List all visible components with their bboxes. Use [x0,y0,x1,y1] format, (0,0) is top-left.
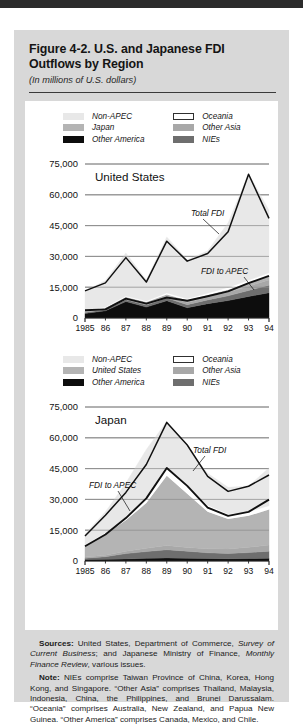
y-axis-tick-label: 15,000 [49,525,78,536]
chart-japan-svg: 015,00030,00045,00060,00075,000198586878… [33,393,276,589]
sources-text-a: United States, Department of Commerce, [74,639,238,648]
figure-title-line-2: Outflows by Region [29,57,144,71]
axes [85,561,269,565]
legend-swatch-icon [173,136,194,143]
legend-item-non-apec: Non-APEC [63,111,171,121]
legend-japan: Non-APEC United States Other America Oce… [33,354,270,387]
figure-header: Figure 4-2. U.S. and Japanese FDI Outflo… [25,40,278,86]
annotation-total-fdi: Total FDI [191,208,225,218]
x-axis-tick-label: 94 [264,323,274,333]
x-axis-tick-label: 93 [244,323,254,333]
axes [85,318,269,322]
legend-swatch-icon [63,113,84,120]
legend-item-oceania: Oceania [173,354,270,364]
legend-swatch-icon [63,379,84,386]
legend-item-label: Other America [92,378,144,387]
legend-item-japan: Japan [63,123,171,133]
legend-swatch-icon [63,356,84,363]
legend-swatch-icon [173,356,194,363]
legend-column-right: Oceania Other Asia NIEs [171,111,270,144]
definitions-note: Note: NIEs comprise Taiwan Province of C… [30,673,274,725]
note-label: Note: [39,673,60,682]
x-axis-tick-label: 88 [142,566,152,576]
chart-japan: 015,00030,00045,00060,00075,000198586878… [33,393,270,589]
sources-label: Sources: [39,639,74,648]
legend-united-states: Non-APEC Japan Other America Oceania [33,111,270,144]
y-axis-tick-label: 45,000 [49,220,78,231]
legend-item-other-asia: Other Asia [173,123,270,133]
legend-item-non-apec: Non-APEC [63,354,171,364]
chart-title: Japan [95,413,127,426]
annotation-leader-total-fdi [203,219,219,234]
legend-item-label: Japan [92,123,114,132]
legend-item-label: Oceania [202,355,233,364]
annotation-total-fdi: Total FDI [193,445,227,455]
page-title: Figure 4-2. U.S. and Japanese FDI Outflo… [29,42,276,72]
charts-card: Non-APEC Japan Other America Oceania [25,101,278,630]
x-axis-tick-label: 1985 [75,323,94,333]
legend-item-label: Non-APEC [92,112,132,121]
x-axis-tick-label: 94 [264,566,274,576]
legend-item-oceania: Oceania [173,111,270,121]
legend-swatch-icon [173,124,194,131]
legend-item-label: Other America [92,135,144,144]
legend-column-right: Oceania Other Asia NIEs [171,354,270,387]
legend-item-nies: NIEs [173,134,270,144]
x-axis-tick-label: 93 [244,566,254,576]
figure-title-line-1: Figure 4-2. U.S. and Japanese FDI [29,42,225,56]
chart-united-states: 015,00030,00045,00060,00075,000198586878… [33,150,270,346]
figure-frame: Figure 4-2. U.S. and Japanese FDI Outflo… [14,30,289,702]
legend-item-label: Other Asia [202,366,240,375]
legend-item-label: NIEs [202,378,220,387]
x-axis-tick-label: 90 [182,566,192,576]
x-axis-tick-label: 89 [162,566,172,576]
legend-swatch-icon [63,124,84,131]
annotation-fdi-to-apec: FDI to APEC [201,266,249,276]
y-axis-tick-label: 30,000 [49,251,78,262]
figure-units-subtitle: (In millions of U.S. dollars) [29,75,276,86]
legend-item-other-asia: Other Asia [173,366,270,376]
x-axis-tick-label: 91 [203,566,213,576]
sources-text-c: , various issues. [88,660,146,669]
legend-item-label: Non-APEC [92,355,132,364]
chart-title: United States [95,170,165,183]
legend-swatch-icon [63,367,84,374]
sources-note: Sources: United States, Department of Co… [30,639,274,670]
legend-swatch-icon [173,367,194,374]
legend-column-left: Non-APEC United States Other America [37,354,171,387]
y-axis-tick-label: 15,000 [49,282,78,293]
x-axis-tick-label: 86 [101,323,111,333]
y-axis-tick-label: 30,000 [49,494,78,505]
legend-swatch-icon [173,113,194,120]
note-text: NIEs comprise Taiwan Province of China, … [30,673,274,724]
y-axis-tick-label: 60,000 [49,189,78,200]
x-axis-tick-label: 90 [182,323,192,333]
y-axis-tick-label: 75,000 [49,401,78,412]
x-axis-tick-label: 1985 [75,566,94,576]
title-divider [29,92,276,93]
annotation-fdi-to-apec: FDI to APEC [89,480,137,490]
stacked-areas [85,421,269,561]
x-axis-tick-label: 87 [121,323,131,333]
x-axis-tick-label: 92 [223,323,233,333]
legend-item-label: Other Asia [202,123,240,132]
sources-text-b: ; and Japanese Ministry of Finance, [95,649,245,658]
legend-column-left: Non-APEC Japan Other America [37,111,171,144]
legend-item-label: United States [92,366,141,375]
x-axis-tick-label: 91 [203,323,213,333]
x-axis-tick-label: 92 [223,566,233,576]
legend-swatch-icon [63,136,84,143]
legend-item-label: NIEs [202,135,220,144]
y-axis-tick-label: 75,000 [49,158,78,169]
x-axis-tick-label: 86 [101,566,111,576]
figure-notes: Sources: United States, Department of Co… [25,639,278,725]
legend-item-label: Oceania [202,112,233,121]
x-axis-tick-label: 89 [162,323,172,333]
legend-item-nies: NIEs [173,377,270,387]
legend-item-other-america: Other America [63,377,171,387]
y-axis-tick-label: 0 [73,555,78,566]
legend-item-united-states: United States [63,366,171,376]
x-axis-tick-label: 88 [142,323,152,333]
y-axis-tick-label: 0 [73,312,78,323]
